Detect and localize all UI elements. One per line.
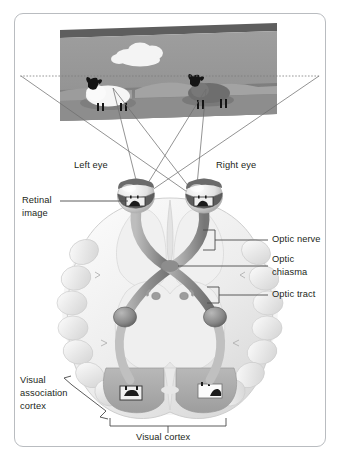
label-visual-association-line3: cortex bbox=[20, 401, 46, 412]
lateral-geniculate-body-right bbox=[204, 307, 227, 327]
label-retinal-image-line1: Retinal bbox=[22, 195, 52, 206]
visual-pathway-figure: Left eye Right eye Retinal image Optic n… bbox=[0, 0, 340, 460]
label-optic-nerve: Optic nerve bbox=[272, 234, 321, 245]
left-eye-retinal-image bbox=[126, 196, 145, 207]
cortex-image-left-hemisphere bbox=[120, 386, 142, 400]
cerebellum-tip bbox=[161, 386, 179, 394]
bracket-va-tip-bottom bbox=[100, 417, 108, 419]
label-optic-chiasma-line2: chiasma bbox=[272, 267, 307, 278]
label-visual-association-line2: association bbox=[20, 388, 68, 399]
label-retinal-image-line2: image bbox=[22, 208, 48, 219]
label-right-eye: Right eye bbox=[216, 160, 256, 171]
optic-chiasma bbox=[161, 260, 179, 272]
bracket-visual-cortex bbox=[110, 418, 226, 426]
midbrain-mass bbox=[115, 282, 225, 372]
label-optic-chiasma-line1: Optic bbox=[272, 254, 294, 265]
brain bbox=[57, 198, 283, 419]
label-visual-association-line1: Visual bbox=[20, 375, 46, 386]
label-left-eye: Left eye bbox=[74, 160, 108, 171]
bracket-va-tip-top bbox=[64, 376, 71, 378]
left-eye bbox=[118, 179, 156, 214]
right-eye-retinal-image bbox=[194, 196, 213, 207]
label-visual-cortex: Visual cortex bbox=[136, 432, 190, 443]
right-eye bbox=[186, 179, 223, 214]
label-optic-tract: Optic tract bbox=[272, 289, 315, 300]
lateral-geniculate-body-left bbox=[114, 307, 137, 327]
